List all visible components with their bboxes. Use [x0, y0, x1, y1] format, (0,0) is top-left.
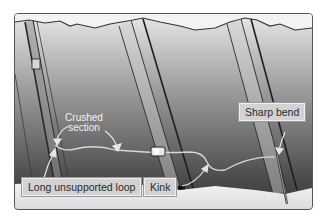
crushed-section-line2: section [59, 123, 109, 133]
kink-label: Kink [144, 178, 176, 196]
crushed-section-callout: Crushed section [59, 113, 109, 133]
sharp-bend-label: Sharp bend [239, 103, 305, 121]
illustration-frame: Crushed section Sharp bend Long unsuppor… [14, 13, 313, 210]
long-unsupported-loop-label: Long unsupported loop [22, 178, 141, 196]
